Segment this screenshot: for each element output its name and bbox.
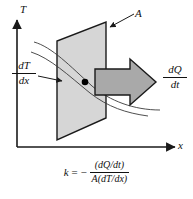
heat-flow-numerator: dQ <box>163 64 187 76</box>
equation-fraction-denominator: A(dT/dx) <box>90 174 130 185</box>
heat-flow-rate-label: dQ dt <box>163 64 187 90</box>
thermal-conduction-figure: T x A dT dx dQ dt k = − (dQ/dt) A(dT/dx) <box>0 0 193 199</box>
equation-minus-sign: − <box>80 166 87 178</box>
equation-fraction: (dQ/dt) A(dT/dx) <box>90 160 130 184</box>
equation-lhs: k <box>64 166 69 178</box>
x-axis-label: x <box>178 140 183 151</box>
leader-line-area <box>110 14 134 27</box>
gradient-point-marker <box>82 79 89 86</box>
gradient-denominator: dx <box>12 75 36 87</box>
equation-equals-sign: = <box>71 166 78 178</box>
conductivity-equation: k = − (dQ/dt) A(dT/dx) <box>0 160 193 184</box>
heat-flow-denominator: dt <box>163 79 187 91</box>
gradient-numerator: dT <box>12 60 36 72</box>
area-label: A <box>135 8 142 19</box>
temperature-gradient-label: dT dx <box>12 60 36 86</box>
equation-fraction-numerator: (dQ/dt) <box>90 160 130 171</box>
equation-row: k = − (dQ/dt) A(dT/dx) <box>64 160 129 184</box>
y-axis-label: T <box>20 4 26 15</box>
